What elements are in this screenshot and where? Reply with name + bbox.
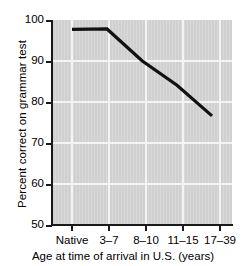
- y-axis-title: Percent correct on grammar test: [12, 16, 32, 232]
- series-path: [72, 29, 212, 116]
- x-axis-line: [52, 224, 233, 226]
- y-axis-line: [51, 20, 53, 225]
- data-series-line: [52, 20, 232, 224]
- y-tick-label-100: 100: [4, 14, 44, 26]
- grammar-test-line-chart: Percent correct on grammar test 100 90 8…: [0, 0, 246, 266]
- plot-area: [52, 20, 232, 224]
- y-tick-label-80: 80: [4, 96, 44, 108]
- x-tick-mark-native: [71, 225, 73, 231]
- x-tick-mark-3-7: [108, 225, 110, 231]
- x-tick-label-17-39: 17–39: [192, 234, 246, 247]
- x-tick-mark-11-15: [182, 225, 184, 231]
- y-tick-label-60: 60: [4, 178, 44, 190]
- y-tick-label-70: 70: [4, 137, 44, 149]
- x-tick-mark-8-10: [145, 225, 147, 231]
- y-tick-label-90: 90: [4, 55, 44, 67]
- y-tick-label-50: 50: [4, 219, 44, 231]
- x-tick-mark-17-39: [219, 225, 221, 231]
- x-axis-title: Age at time of arrival in U.S. (years): [0, 250, 246, 263]
